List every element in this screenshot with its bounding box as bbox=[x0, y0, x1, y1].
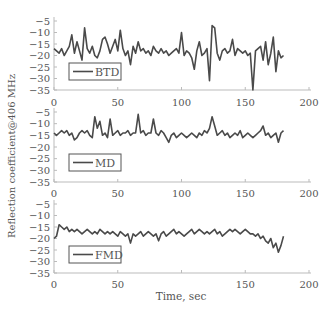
y-tick-label: −30 bbox=[29, 73, 50, 84]
x-tick-label: 150 bbox=[236, 279, 255, 290]
y-tick-label: −25 bbox=[29, 62, 50, 73]
y-tick-label: −35 bbox=[29, 177, 50, 188]
chart-figure: −5−10−15−20−25−30−35050100150200BTD−5−10… bbox=[0, 0, 326, 313]
x-tick-label: 200 bbox=[299, 279, 318, 290]
x-tick-label: 50 bbox=[111, 97, 124, 108]
legend-label: MD bbox=[95, 157, 115, 170]
x-tick-label: 200 bbox=[299, 188, 318, 199]
y-tick-label: −5 bbox=[35, 199, 50, 210]
y-tick-label: −20 bbox=[29, 50, 50, 61]
legend-label: BTD bbox=[95, 66, 119, 79]
y-tick-label: −30 bbox=[29, 256, 50, 267]
x-tick-label: 0 bbox=[51, 97, 57, 108]
y-tick-label: −35 bbox=[29, 268, 50, 279]
x-tick-label: 50 bbox=[111, 279, 124, 290]
subplot-md: −5−10−15−20−25−30−35050100150200MD bbox=[29, 107, 319, 200]
y-tick-label: −5 bbox=[35, 16, 50, 27]
subplot-fmd: −5−10−15−20−25−30−35050150200FMD bbox=[29, 199, 319, 291]
y-axis-title: Reflection coefficient@406 MHz bbox=[6, 74, 17, 238]
chart-svg: −5−10−15−20−25−30−35050100150200BTD−5−10… bbox=[0, 0, 326, 313]
y-tick-label: −25 bbox=[29, 153, 50, 164]
series-line-md bbox=[54, 114, 284, 142]
y-tick-label: −25 bbox=[29, 245, 50, 256]
legend: BTD bbox=[69, 63, 121, 80]
x-tick-label: 100 bbox=[172, 97, 191, 108]
y-tick-label: −5 bbox=[35, 107, 50, 118]
y-tick-label: −10 bbox=[29, 210, 50, 221]
x-tick-label: 200 bbox=[299, 97, 318, 108]
y-tick-label: −15 bbox=[29, 39, 50, 50]
y-tick-label: −20 bbox=[29, 142, 50, 153]
legend: MD bbox=[69, 154, 121, 171]
x-tick-label: 150 bbox=[236, 97, 255, 108]
y-tick-label: −35 bbox=[29, 85, 50, 96]
y-tick-label: −10 bbox=[29, 27, 50, 38]
y-tick-label: −15 bbox=[29, 222, 50, 233]
x-tick-label: 50 bbox=[111, 188, 124, 199]
y-tick-label: −30 bbox=[29, 165, 50, 176]
x-tick-label: 0 bbox=[51, 188, 57, 199]
x-tick-label: 100 bbox=[172, 188, 191, 199]
x-tick-label: 0 bbox=[51, 279, 57, 290]
y-tick-label: −15 bbox=[29, 130, 50, 141]
x-tick-label: 150 bbox=[236, 188, 255, 199]
legend: FMD bbox=[69, 246, 123, 263]
legend-label: FMD bbox=[95, 249, 123, 262]
x-axis-title: Time, sec bbox=[156, 290, 207, 302]
subplot-btd: −5−10−15−20−25−30−35050100150200BTD bbox=[29, 16, 319, 109]
y-tick-label: −10 bbox=[29, 118, 50, 129]
y-tick-label: −20 bbox=[29, 233, 50, 244]
